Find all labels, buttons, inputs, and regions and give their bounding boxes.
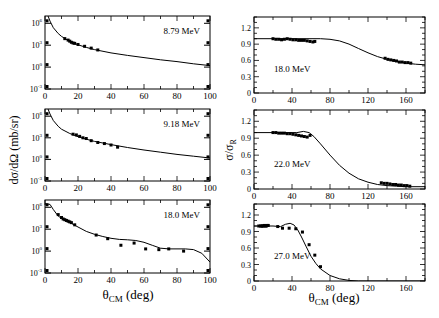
- x-tick-label: 60: [140, 275, 150, 285]
- y-tick-label: 1.2: [241, 24, 251, 33]
- x-tick-label: 100: [203, 183, 217, 193]
- y-tick-label: 106: [32, 18, 43, 28]
- data-point: [110, 144, 113, 147]
- y-tick-label: 103: [32, 224, 43, 234]
- y-tick-label: 100: [32, 246, 43, 256]
- data-point: [63, 37, 66, 40]
- y-tick-label: 1.2: [241, 211, 251, 220]
- data-point: [309, 40, 312, 43]
- y-tick-label: 0.3: [241, 168, 251, 177]
- right-xlabel-unit: (deg): [329, 290, 360, 305]
- right-ylabel: σ/σR: [222, 139, 238, 161]
- x-tick-label: 0: [43, 183, 48, 193]
- data-point: [96, 48, 99, 51]
- data-point: [291, 133, 294, 136]
- y-tick-label: 0.9: [241, 40, 251, 49]
- data-point: [182, 250, 185, 253]
- data-point: [403, 184, 406, 187]
- data-point: [81, 136, 84, 139]
- y-tick-label: 100: [32, 154, 43, 164]
- model-curve: [47, 12, 210, 65]
- data-point: [283, 38, 286, 41]
- x-tick-label: 160: [399, 191, 413, 201]
- y-tick-marker: [46, 269, 49, 272]
- data-point: [277, 38, 280, 41]
- y-tick-label: 0.9: [241, 228, 251, 237]
- data-point: [300, 134, 303, 137]
- left-ylabel: dσ/dΩ (mb/sr): [7, 115, 21, 184]
- y-tick-label: 10-3: [30, 268, 43, 278]
- data-point: [303, 39, 306, 42]
- y-tick-label: 0.6: [241, 151, 251, 160]
- data-point: [274, 131, 277, 134]
- y-tick-marker: [46, 63, 49, 66]
- data-point: [106, 237, 109, 240]
- data-point: [57, 213, 60, 216]
- x-tick-label: 40: [288, 283, 298, 293]
- figure: 02040608010010610310010-38.79 MeV0204060…: [0, 0, 439, 318]
- data-point: [286, 37, 289, 40]
- data-point: [294, 227, 297, 230]
- y-tick-marker-right: [207, 41, 210, 44]
- x-tick-label: 0: [43, 275, 48, 285]
- y-tick-marker-right: [207, 203, 210, 206]
- data-point: [400, 184, 403, 187]
- panel-1: 02040608010010610310010-38.79 MeV: [30, 12, 217, 101]
- x-tick-label: 80: [173, 183, 183, 193]
- data-point: [308, 243, 311, 246]
- x-tick-label: 0: [252, 95, 257, 105]
- data-point: [119, 244, 122, 247]
- x-tick-label: 100: [203, 275, 217, 285]
- y-tick-label: 106: [32, 111, 43, 121]
- x-tick-label: 40: [107, 275, 117, 285]
- data-point: [388, 182, 391, 185]
- y-tick-label: 10-3: [30, 84, 43, 94]
- data-point: [313, 254, 316, 257]
- right-ylabel-main: σ/σ: [222, 144, 236, 161]
- data-point: [401, 61, 404, 64]
- data-point: [274, 38, 277, 41]
- y-tick-marker-right: [207, 177, 210, 180]
- data-point: [95, 234, 98, 237]
- x-tick-label: 80: [173, 275, 183, 285]
- x-tick-label: 60: [140, 91, 150, 101]
- left-xlabel: θCM (deg): [103, 287, 154, 304]
- energy-label: 9.18 MeV: [164, 119, 201, 129]
- y-tick-label: 103: [32, 133, 43, 143]
- data-point: [288, 227, 291, 230]
- right-xlabel: θCM (deg): [309, 290, 360, 307]
- data-point: [384, 57, 387, 60]
- y-tick-marker: [46, 85, 49, 88]
- data-point: [404, 61, 407, 64]
- data-point: [289, 38, 292, 41]
- panel-6: 0408012016000.30.60.91.227.0 MeV: [241, 204, 425, 293]
- x-tick-label: 20: [74, 183, 84, 193]
- y-tick-marker-right: [207, 225, 210, 228]
- data-point: [405, 184, 408, 187]
- y-tick-label: 103: [32, 40, 43, 50]
- data-point: [77, 43, 80, 46]
- y-tick-label: 0: [247, 89, 251, 98]
- y-tick-marker-right: [207, 19, 210, 22]
- y-tick-marker: [46, 134, 49, 137]
- y-tick-label: 100: [32, 62, 43, 72]
- x-tick-label: 160: [399, 95, 413, 105]
- y-tick-marker: [46, 112, 49, 115]
- y-tick-marker: [46, 19, 49, 22]
- data-point: [286, 132, 289, 135]
- left-xlabel-unit: (deg): [123, 287, 154, 302]
- x-tick-label: 100: [203, 91, 217, 101]
- data-point: [103, 142, 106, 145]
- energy-label: 27.0 MeV: [274, 251, 311, 261]
- plot-frame: [254, 17, 425, 93]
- data-point: [394, 183, 397, 186]
- data-point: [157, 248, 160, 251]
- y-tick-marker-right: [207, 269, 210, 272]
- y-tick-label: 0.6: [241, 56, 251, 65]
- data-point: [309, 134, 312, 137]
- data-point: [306, 136, 309, 139]
- y-tick-label: 0.9: [241, 134, 251, 143]
- x-tick-label: 60: [140, 183, 150, 193]
- energy-label: 22.0 MeV: [274, 159, 311, 169]
- y-tick-marker: [46, 155, 49, 158]
